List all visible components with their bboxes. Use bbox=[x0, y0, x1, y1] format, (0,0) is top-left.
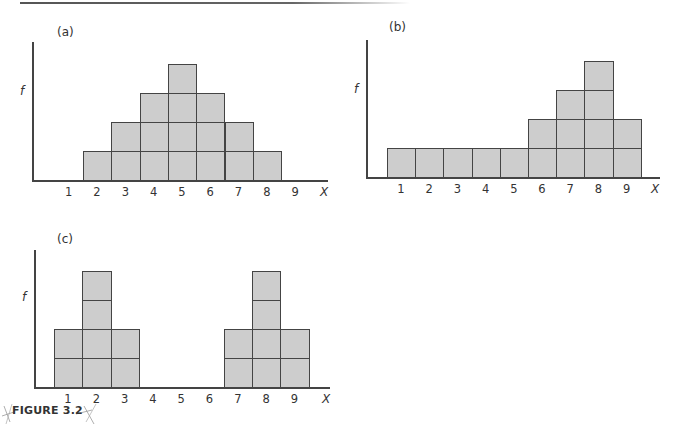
histogram-box bbox=[168, 93, 197, 123]
histogram-box bbox=[443, 148, 472, 178]
histogram-box bbox=[168, 122, 197, 152]
histogram-box bbox=[140, 122, 169, 152]
histogram-box bbox=[415, 148, 444, 178]
panel-label: (c) bbox=[57, 232, 73, 246]
histogram-box bbox=[252, 300, 281, 330]
y-axis-label: f bbox=[20, 84, 24, 98]
histogram-box bbox=[82, 358, 111, 388]
x-tick-label: 4 bbox=[140, 185, 168, 199]
x-tick-label: 3 bbox=[111, 185, 139, 199]
x-tick-label: 5 bbox=[168, 185, 196, 199]
x-tick-label: 9 bbox=[281, 185, 309, 199]
histogram-box bbox=[253, 151, 282, 181]
histogram-box bbox=[140, 151, 169, 181]
x-axis-label: X bbox=[320, 185, 328, 199]
x-tick-label: 3 bbox=[111, 392, 139, 406]
x-tick-label: 7 bbox=[225, 185, 253, 199]
x-tick-label: 8 bbox=[584, 182, 612, 196]
x-tick-label: 6 bbox=[528, 182, 556, 196]
y-axis-line bbox=[32, 42, 34, 180]
histogram-box bbox=[472, 148, 501, 178]
histogram-box bbox=[83, 151, 112, 181]
histogram-box bbox=[111, 329, 140, 359]
x-tick-label: 6 bbox=[196, 392, 224, 406]
histogram-box bbox=[196, 122, 225, 152]
histogram-box bbox=[54, 358, 83, 388]
x-tick-label: 2 bbox=[83, 185, 111, 199]
histogram-box bbox=[556, 148, 585, 178]
histogram-box bbox=[225, 151, 254, 181]
histogram-box bbox=[252, 358, 281, 388]
histogram-box bbox=[140, 93, 169, 123]
histogram-box bbox=[280, 329, 309, 359]
x-tick-label: 1 bbox=[55, 185, 83, 199]
histogram-box bbox=[387, 148, 416, 178]
top-rule bbox=[20, 2, 410, 4]
y-axis-label: f bbox=[354, 82, 358, 96]
y-axis-line bbox=[34, 250, 36, 387]
histogram-box bbox=[584, 61, 613, 91]
panel-label: (b) bbox=[389, 20, 406, 34]
histogram-box bbox=[584, 90, 613, 120]
y-axis-label: f bbox=[22, 290, 26, 304]
histogram-box bbox=[111, 122, 140, 152]
histogram-box bbox=[500, 148, 529, 178]
x-axis-label: X bbox=[651, 182, 659, 196]
histogram-box bbox=[584, 119, 613, 149]
histogram-box bbox=[225, 122, 254, 152]
histogram-box bbox=[82, 329, 111, 359]
x-tick-label: 7 bbox=[224, 392, 252, 406]
x-tick-label: 1 bbox=[54, 392, 82, 406]
histogram-box bbox=[528, 148, 557, 178]
x-tick-label: 3 bbox=[443, 182, 471, 196]
histogram-box bbox=[584, 148, 613, 178]
x-tick-label: 6 bbox=[196, 185, 224, 199]
x-axis-label: X bbox=[322, 392, 330, 406]
histogram-box bbox=[168, 64, 197, 94]
x-tick-label: 4 bbox=[139, 392, 167, 406]
x-tick-label: 5 bbox=[500, 182, 528, 196]
histogram-box bbox=[196, 93, 225, 123]
x-tick-label: 9 bbox=[613, 182, 641, 196]
histogram-box bbox=[54, 329, 83, 359]
histogram-box bbox=[111, 151, 140, 181]
x-tick-label: 1 bbox=[387, 182, 415, 196]
histogram-box bbox=[111, 358, 140, 388]
histogram-box bbox=[82, 300, 111, 330]
x-tick-label: 5 bbox=[167, 392, 195, 406]
x-tick-label: 8 bbox=[253, 185, 281, 199]
histogram-box bbox=[82, 271, 111, 301]
histogram-box bbox=[613, 119, 642, 149]
histogram-box bbox=[528, 119, 557, 149]
histogram-box bbox=[613, 148, 642, 178]
x-tick-label: 2 bbox=[82, 392, 110, 406]
histogram-box bbox=[280, 358, 309, 388]
histogram-box bbox=[252, 329, 281, 359]
x-tick-label: 4 bbox=[472, 182, 500, 196]
x-tick-label: 7 bbox=[556, 182, 584, 196]
x-tick-label: 9 bbox=[280, 392, 308, 406]
histogram-box bbox=[556, 119, 585, 149]
x-tick-label: 2 bbox=[415, 182, 443, 196]
histogram-box bbox=[224, 358, 253, 388]
y-axis-line bbox=[366, 40, 368, 177]
histogram-box bbox=[252, 271, 281, 301]
histogram-box bbox=[196, 151, 225, 181]
histogram-box bbox=[224, 329, 253, 359]
histogram-box bbox=[556, 90, 585, 120]
panel-label: (a) bbox=[57, 25, 74, 39]
x-tick-label: 8 bbox=[252, 392, 280, 406]
histogram-box bbox=[168, 151, 197, 181]
